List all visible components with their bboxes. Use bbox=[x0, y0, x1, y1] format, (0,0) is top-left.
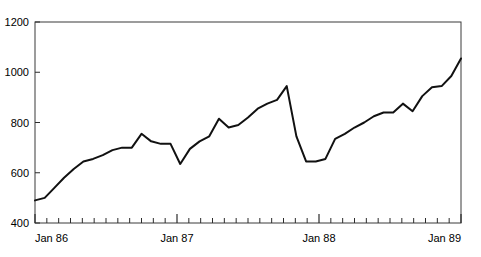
x-tick-label-jan-89: Jan 89 bbox=[428, 232, 461, 244]
chart-figure: 40060080010001200 Jan 86Jan 87Jan 88Jan … bbox=[0, 0, 481, 257]
y-tick-label-600: 600 bbox=[11, 167, 29, 179]
y-tick-label-400: 400 bbox=[11, 217, 29, 229]
y-tick-label-1200: 1200 bbox=[5, 16, 29, 28]
plot-frame bbox=[35, 22, 461, 223]
x-tick-label-jan-87: Jan 87 bbox=[160, 232, 193, 244]
y-tick-label-800: 800 bbox=[11, 117, 29, 129]
x-tick-label-jan-86: Jan 86 bbox=[35, 232, 68, 244]
x-axis-labels: Jan 86Jan 87Jan 88Jan 89 bbox=[35, 232, 461, 244]
x-tick-label-jan-88: Jan 88 bbox=[302, 232, 335, 244]
line-chart: 40060080010001200 Jan 86Jan 87Jan 88Jan … bbox=[0, 0, 481, 257]
y-tick-label-1000: 1000 bbox=[5, 66, 29, 78]
